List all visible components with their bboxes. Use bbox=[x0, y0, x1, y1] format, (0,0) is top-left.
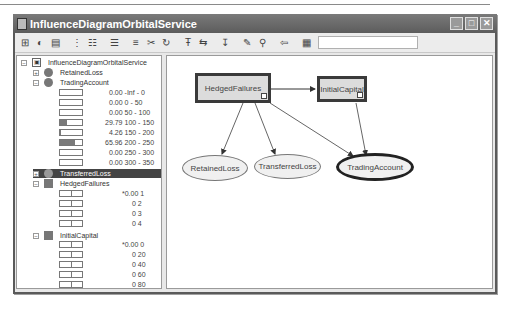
state-value: 0 4 bbox=[132, 220, 142, 227]
window-title: InfluenceDiagramOrbitalService bbox=[30, 18, 197, 30]
state-value: 0.00 -Inf - 0 bbox=[109, 89, 145, 96]
state-value: 0 20 bbox=[132, 251, 146, 258]
collapse-icon[interactable]: − bbox=[33, 181, 39, 187]
arc-icon[interactable]: ↧ bbox=[219, 37, 231, 49]
open-icon[interactable]: ◐ bbox=[34, 37, 46, 49]
chance-node-icon bbox=[44, 78, 53, 87]
state-value: 0 2 bbox=[132, 200, 142, 207]
state-value: 0 40 bbox=[132, 261, 146, 268]
tree-node-label: HedgedFailures bbox=[60, 180, 109, 187]
print-icon[interactable]: ▤ bbox=[49, 37, 61, 49]
grid-icon[interactable]: ☷ bbox=[86, 37, 98, 49]
utility-node-icon[interactable]: ⇆ bbox=[197, 37, 209, 49]
tree-root-label: InfluenceDiagramOrbitalService bbox=[48, 59, 147, 66]
tree-node-retainedloss[interactable]: + RetainedLoss bbox=[33, 68, 103, 77]
state-value: 0 60 bbox=[132, 271, 146, 278]
state-bar bbox=[59, 281, 83, 288]
state-bar bbox=[59, 241, 83, 248]
tree-node-hedgedfailures[interactable]: − HedgedFailures bbox=[33, 179, 109, 188]
app-icon bbox=[17, 18, 27, 30]
edit-icon[interactable]: ✎ bbox=[241, 37, 253, 49]
cut-icon[interactable]: ✂ bbox=[145, 37, 157, 49]
state-bar bbox=[59, 200, 83, 207]
new-network-icon[interactable]: ⊞ bbox=[19, 37, 31, 49]
collapse-icon[interactable]: − bbox=[21, 60, 27, 66]
tree-root[interactable]: − ▣ InfluenceDiagramOrbitalService bbox=[21, 58, 147, 67]
tree-node-label: TransferredLoss bbox=[60, 170, 111, 177]
state-value: *0.00 0 bbox=[122, 241, 144, 248]
node-expand-icon[interactable] bbox=[357, 92, 363, 98]
toolbar: ⊞ ◐ ▤ ⋮ ☷ ☰ ≡ ✂ ↻ Ŧ ⇆ ↧ ✎ ⚲ ⇦ ▦ bbox=[15, 33, 495, 53]
node-tree-panel[interactable]: − ▣ InfluenceDiagramOrbitalService + Ret… bbox=[16, 55, 162, 289]
collapse-icon[interactable]: − bbox=[33, 233, 39, 239]
refresh-icon[interactable]: ↻ bbox=[160, 37, 172, 49]
state-value: 0 3 bbox=[132, 210, 142, 217]
prob-bar bbox=[59, 109, 83, 116]
search-input[interactable] bbox=[318, 36, 418, 49]
title-bar: InfluenceDiagramOrbitalService _ □ ✕ bbox=[13, 14, 497, 33]
state-bar bbox=[59, 190, 83, 197]
state-value: 0.00 300 - 350 bbox=[109, 159, 154, 166]
decision-node-icon bbox=[44, 179, 53, 188]
state-value: *0.00 1 bbox=[122, 190, 144, 197]
back-icon[interactable]: ⇦ bbox=[278, 37, 290, 49]
prob-bar bbox=[59, 89, 83, 96]
state-bar bbox=[59, 210, 83, 217]
expand-icon[interactable]: + bbox=[33, 70, 39, 76]
tree-node-label: TradingAccount bbox=[60, 79, 109, 86]
prob-bar bbox=[59, 139, 83, 146]
state-value: 0.00 50 - 100 bbox=[109, 109, 150, 116]
layout-icon[interactable]: ⋮ bbox=[71, 37, 83, 49]
find-icon[interactable]: ⚲ bbox=[256, 37, 268, 49]
diagram-canvas[interactable]: HedgedFailures InitialCapital RetainedLo… bbox=[166, 55, 493, 289]
diagram-node-transferredloss[interactable]: TransferredLoss bbox=[254, 154, 321, 179]
state-value: 65.96 200 - 250 bbox=[105, 139, 154, 146]
minimize-button[interactable]: _ bbox=[450, 17, 463, 30]
collapse-icon[interactable]: − bbox=[33, 80, 39, 86]
prob-bar bbox=[59, 149, 83, 156]
state-bar bbox=[59, 220, 83, 227]
expand-icon[interactable]: + bbox=[33, 171, 39, 177]
network-icon: ▣ bbox=[32, 58, 41, 67]
diagram-node-retainedloss[interactable]: RetainedLoss bbox=[182, 155, 248, 181]
tree-node-label: RetainedLoss bbox=[60, 69, 103, 76]
app-window: InfluenceDiagramOrbitalService _ □ ✕ ⊞ ◐… bbox=[13, 14, 497, 294]
state-value: 4.26 150 - 200 bbox=[109, 129, 154, 136]
close-button[interactable]: ✕ bbox=[480, 17, 493, 30]
tree-node-initialcapital[interactable]: − InitialCapital bbox=[33, 231, 98, 240]
tree-node-label: InitialCapital bbox=[60, 232, 98, 239]
maximize-button[interactable]: □ bbox=[465, 17, 478, 30]
state-bar bbox=[59, 261, 83, 268]
decision-node-icon bbox=[44, 231, 53, 240]
prob-bar bbox=[59, 129, 83, 136]
chance-node-icon bbox=[44, 68, 53, 77]
state-bar bbox=[59, 251, 83, 258]
decision-node-icon[interactable]: Ŧ bbox=[182, 37, 194, 49]
node-expand-icon[interactable] bbox=[261, 93, 267, 99]
diagram-node-hedgedfailures[interactable]: HedgedFailures bbox=[195, 73, 271, 103]
state-bar bbox=[59, 271, 83, 278]
prob-bar bbox=[59, 99, 83, 106]
state-value: 29.79 100 - 150 bbox=[105, 119, 154, 126]
diagram-node-tradingaccount[interactable]: TradingAccount bbox=[336, 153, 414, 181]
state-value: 0.00 250 - 300 bbox=[109, 149, 154, 156]
top-rule bbox=[0, 4, 490, 5]
tree-node-transferredloss[interactable]: + TransferredLoss bbox=[33, 169, 161, 178]
state-value: 0 80 bbox=[132, 281, 146, 288]
align-icon[interactable]: ≡ bbox=[130, 37, 142, 49]
prob-bar bbox=[59, 119, 83, 126]
state-value: 0.00 0 - 50 bbox=[109, 99, 142, 106]
diagram-node-initialcapital[interactable]: InitialCapital bbox=[317, 76, 367, 102]
save-icon[interactable]: ▦ bbox=[300, 37, 312, 49]
tree-node-tradingaccount[interactable]: − TradingAccount bbox=[33, 78, 109, 87]
prob-bar bbox=[59, 159, 83, 166]
chance-node-icon bbox=[44, 169, 53, 178]
list-icon[interactable]: ☰ bbox=[108, 37, 120, 49]
